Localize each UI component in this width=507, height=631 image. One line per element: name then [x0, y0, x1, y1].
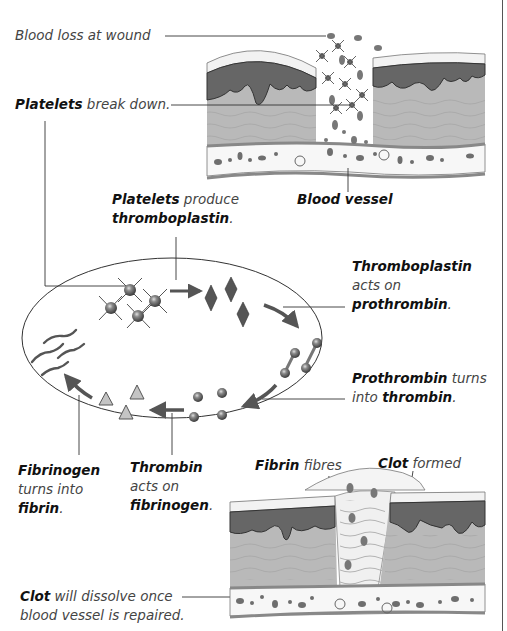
label-platelets-produce: Platelets produce thromboplastin. — [112, 190, 239, 228]
cycle-ellipse — [22, 258, 322, 418]
label-fibrinogen-turns: Fibrinogen turns into fibrin. — [18, 461, 100, 518]
prothrombin-icon — [280, 338, 322, 378]
label-blood-vessel: Blood vessel — [297, 190, 393, 209]
label-prothrombin-turns: Prothrombin turns into thrombin. — [352, 369, 487, 407]
thromboplastin-icon — [205, 277, 249, 327]
label-clot-dissolve: Clot will dissolve once blood vessel is … — [20, 587, 185, 625]
label-thrombin-acts: Thrombin acts on fibrinogen. — [130, 458, 213, 515]
thrombin-icon — [189, 388, 227, 422]
platelets-icon — [99, 278, 167, 328]
wound-tissue-illustration — [207, 33, 485, 178]
label-thromboplastin-acts: Thromboplastin acts on prothrombin. — [352, 257, 472, 314]
label-clot-formed: Clot formed — [378, 454, 461, 473]
label-blood-loss: Blood loss at wound — [15, 26, 151, 45]
clot-tissue-illustration — [230, 468, 485, 617]
label-platelets-break-down: Platelets break down. — [15, 95, 170, 114]
fibrin-icon — [32, 330, 84, 375]
label-fibrin-fibres: Fibrin fibres — [255, 456, 342, 475]
fibrinogen-icon — [99, 385, 144, 419]
